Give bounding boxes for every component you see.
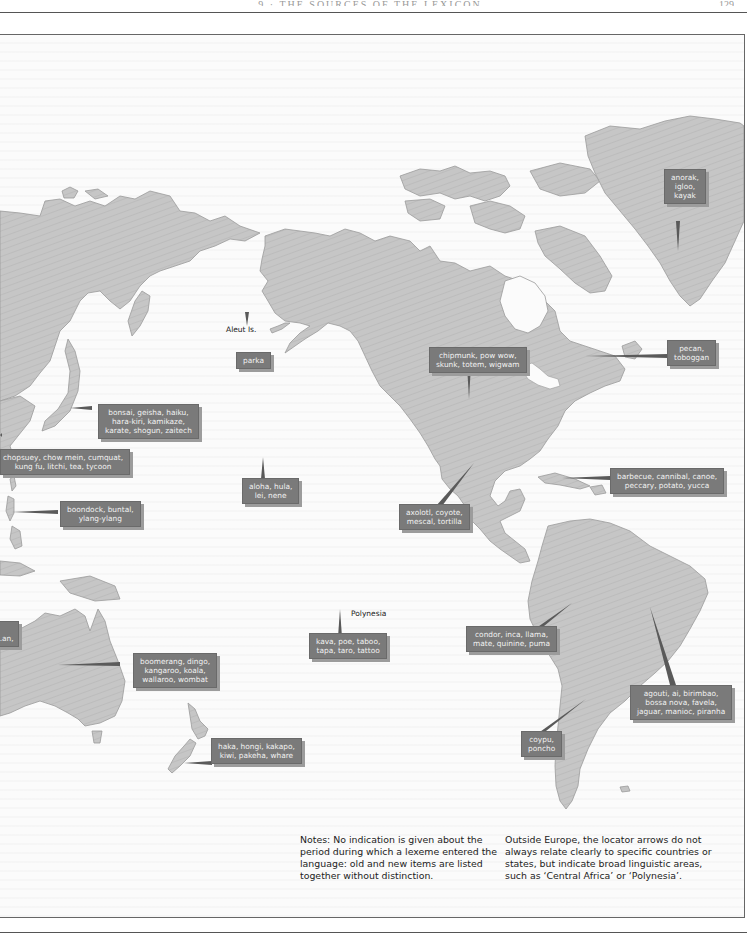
taiwan: [10, 476, 16, 491]
callout-china: chopsuey, chow mein, cumquat, kung fu, l…: [0, 449, 130, 475]
arctic-island-1: [62, 187, 78, 198]
callout-hawaii: aloha, hula, lei, nene: [242, 478, 299, 504]
new-guinea: [60, 576, 120, 601]
pointer-aleut: [245, 312, 249, 326]
callout-greenland: anorak, igloo, kayak: [664, 169, 706, 204]
south-america: [528, 519, 708, 809]
callout-australia: boomerang, dingo, kangaroo, koala, walla…: [133, 653, 217, 688]
falklands: [620, 786, 630, 792]
callout-northeast: pecan, toboggan: [667, 340, 716, 366]
indonesia: [0, 561, 35, 576]
baffin-island: [535, 226, 612, 293]
cuba: [538, 473, 590, 489]
philippines: [6, 496, 22, 549]
aleutian-islands: [270, 323, 290, 333]
place-label-aleut: Aleut Is.: [226, 325, 256, 334]
arctic-island-2: [85, 189, 108, 199]
callout-japan: bonsai, geisha, haiku, hara-kiri, kamika…: [98, 404, 199, 439]
callout-aleut: parka: [236, 352, 271, 369]
footer-rule: [0, 932, 747, 933]
australia: [0, 609, 125, 726]
arctic-archipelago-3: [405, 199, 445, 221]
tasmania: [92, 731, 102, 743]
callout-brazil: agouti, ai, birimbao, bossa nova, favela…: [630, 685, 732, 720]
new-zealand-north: [188, 703, 208, 739]
hispaniola: [590, 485, 606, 495]
notes-left: Notes: No indication is given about the …: [300, 834, 515, 882]
callout-philippines: boondock, buntal, ylang-ylang: [60, 501, 141, 527]
callout-polynesia: kava, poe, taboo, tapa, taro, tattoo: [309, 633, 387, 659]
pointer-philippines: [12, 510, 58, 514]
page-number: 129: [719, 0, 734, 6]
header-rule: [0, 12, 747, 13]
callout-cutoff-west: ... ...an,: [0, 621, 19, 647]
callout-andes: condor, inca, llama, mate, quinine, puma: [466, 626, 557, 652]
new-zealand-south: [168, 739, 196, 773]
place-label-polynesia: Polynesia: [351, 609, 386, 618]
pointer-japan: [70, 406, 92, 410]
siberia-landmass: [0, 191, 260, 401]
world-map-frame: Aleut Is. Hawaii Polynesia anorak, igloo…: [0, 34, 745, 918]
arctic-archipelago-1: [400, 166, 510, 201]
arctic-archipelago-4: [530, 163, 600, 196]
callout-mexico: axolotl, coyote, mescal, tortilla: [399, 504, 470, 530]
callout-caribbean: barbecue, cannibal, canoe, peccary, pota…: [610, 468, 724, 494]
callout-new-zealand: haka, hongi, kakapo, kiwi, pakeha, whare: [211, 738, 302, 764]
callout-north-america: chipmunk, pow wow, skunk, totem, wigwam: [429, 347, 527, 373]
notes-right: Outside Europe, the locator arrows do no…: [505, 834, 735, 882]
arctic-archipelago-2: [470, 201, 525, 233]
running-title: 9 · THE SOURCES OF THE LEXICON: [240, 0, 500, 6]
pointer-new-zealand: [184, 761, 212, 765]
pointer-hawaii: [261, 457, 265, 479]
callout-southern-cone: coypu, poncho: [521, 731, 562, 757]
